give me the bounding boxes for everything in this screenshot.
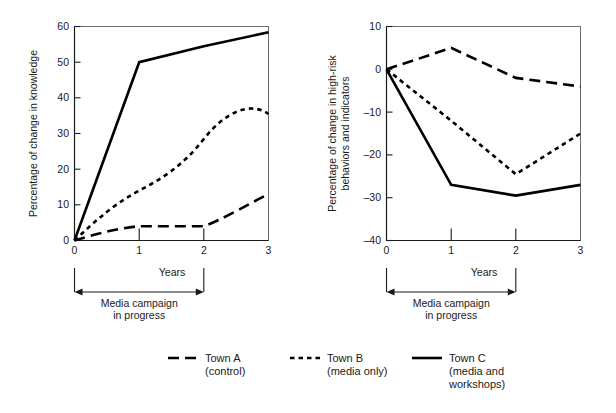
y-axis-title-right: Percentage of change in high-risk behavi… <box>326 55 351 212</box>
legend-sublabel-town-b: (media only) <box>327 365 388 377</box>
media-campaign-label-right-line2: in progress <box>425 309 477 321</box>
media-campaign-label-right-line1: Media campaign <box>413 297 490 309</box>
y-axis-title-right-line2: behaviors and indicators <box>339 77 351 191</box>
x-tick-left-0: 0 <box>72 244 78 256</box>
y-tick-left-60: 60 <box>57 20 69 32</box>
y-tick-left-0: 0 <box>63 234 69 246</box>
legend-sublabel-town-c-line1: (media and <box>449 365 504 377</box>
y-tick-left-10: 10 <box>57 198 69 210</box>
x-tick-left-2: 2 <box>201 244 207 256</box>
x-tick-right-1: 1 <box>448 244 454 256</box>
y-tick-right-neg30: –30 <box>363 191 381 203</box>
legend-sublabel-town-c-line2: workshops) <box>448 378 505 390</box>
two-panel-line-chart: 0 10 20 30 40 50 60 0 1 2 3 Percentage o… <box>0 0 616 413</box>
y-tick-right-neg40: –40 <box>363 234 381 246</box>
y-tick-right-0: 0 <box>375 63 381 75</box>
y-tick-left-50: 50 <box>57 56 69 68</box>
x-tick-right-0: 0 <box>384 244 390 256</box>
x-tick-right-2: 2 <box>513 244 519 256</box>
canvas-background <box>0 0 616 413</box>
y-axis-title-right-line1: Percentage of change in high-risk <box>326 55 338 212</box>
legend-label-town-b: Town B <box>327 352 363 364</box>
legend-label-town-c: Town C <box>449 352 486 364</box>
x-tick-left-3: 3 <box>266 244 272 256</box>
x-tick-left-1: 1 <box>136 244 142 256</box>
y-tick-left-40: 40 <box>57 91 69 103</box>
y-tick-right-neg20: –20 <box>363 148 381 160</box>
media-campaign-label-left-line2: in progress <box>113 309 165 321</box>
y-axis-title-left: Percentage of change in knowledge <box>27 50 39 217</box>
x-tick-right-3: 3 <box>578 244 584 256</box>
media-campaign-label-left-line1: Media campaign <box>101 297 178 309</box>
y-tick-left-20: 20 <box>57 163 69 175</box>
x-axis-title-left: Years <box>159 266 185 278</box>
x-axis-title-right: Years <box>471 266 497 278</box>
legend-label-town-a: Town A <box>205 352 241 364</box>
y-tick-left-30: 30 <box>57 127 69 139</box>
legend-sublabel-town-a: (control) <box>205 365 245 377</box>
figure-container: 0 10 20 30 40 50 60 0 1 2 3 Percentage o… <box>0 0 616 413</box>
y-tick-right-10: 10 <box>369 20 381 32</box>
y-tick-right-neg10: –10 <box>363 106 381 118</box>
